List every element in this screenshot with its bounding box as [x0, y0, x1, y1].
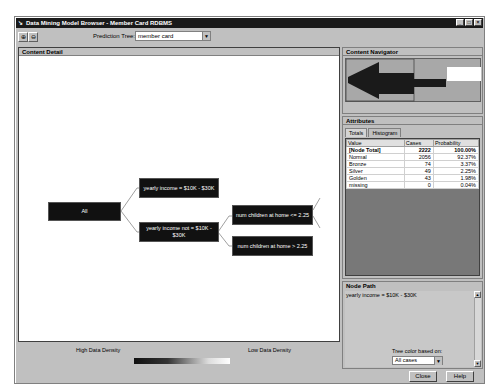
help-button[interactable]: Help — [446, 371, 474, 382]
node-label: num children at home <= 2.25 — [236, 212, 309, 219]
cell-probability: 2.25% — [433, 168, 478, 175]
cell-value: missing — [347, 182, 405, 189]
title-bar[interactable]: ➘ Data Mining Model Browser - Member Car… — [16, 18, 483, 28]
column-header-value[interactable]: Value — [347, 140, 405, 147]
table-row[interactable]: [Node Total] 2222 100.00% — [347, 147, 479, 154]
chevron-down-icon[interactable]: ▼ — [202, 32, 210, 40]
cell-probability: 3.37% — [433, 161, 478, 168]
close-button[interactable]: Close — [409, 371, 437, 382]
node-label: num children at home > 2.25 — [238, 243, 308, 250]
tree-node-children-le[interactable]: num children at home <= 2.25 — [232, 205, 313, 225]
cell-probability: 0.04% — [433, 182, 478, 189]
tree-color-label: Tree color based on: — [392, 348, 442, 354]
scroll-up-icon[interactable]: ▲ — [474, 291, 481, 298]
table-row[interactable]: Silver 49 2.25% — [347, 168, 479, 175]
cell-value: Normal — [347, 154, 405, 161]
model-browser-window: ➘ Data Mining Model Browser - Member Car… — [14, 16, 485, 384]
cell-value: Silver — [347, 168, 405, 175]
zoom-in-icon: ⊕ — [21, 34, 26, 40]
attributes-panel: Attributes Totals Histogram Value Cases … — [342, 116, 483, 279]
navigator-preview — [346, 59, 482, 103]
zoom-in-button[interactable]: ⊕ — [18, 32, 28, 42]
table-row[interactable]: Golden 43 1.98% — [347, 175, 479, 182]
table-row[interactable]: Normal 2056 92.37% — [347, 154, 479, 161]
close-window-button[interactable]: × — [474, 19, 482, 26]
node-label: All — [81, 208, 87, 215]
content-navigator-panel: Content Navigator — [342, 47, 483, 114]
maximize-button[interactable]: □ — [465, 19, 473, 26]
tree-node-all[interactable]: All — [48, 202, 121, 221]
table-row[interactable]: missing 0 0.04% — [347, 182, 479, 189]
cell-cases: 2056 — [404, 154, 433, 161]
column-header-probability[interactable]: Probability — [433, 140, 478, 147]
tree-node-income-no[interactable]: yearly income not = $10K - $30K — [139, 222, 219, 242]
tree-color-select[interactable]: All cases ▼ — [392, 356, 443, 365]
bottom-bar: High Data Density Low Data Density Tree … — [16, 344, 484, 383]
high-density-label: High Data Density — [76, 347, 120, 353]
density-gradient-bar — [134, 358, 230, 364]
node-label: yearly income = $10K - $30K — [144, 185, 215, 192]
cell-cases: 74 — [404, 161, 433, 168]
zoom-out-icon: ⊖ — [31, 34, 36, 40]
cell-cases: 43 — [404, 175, 433, 182]
prediction-tree-value: member card — [138, 33, 173, 39]
prediction-tree-select[interactable]: member card ▼ — [135, 31, 211, 41]
toolbar: ⊕ ⊖ Prediction Tree: member card ▼ — [16, 29, 483, 45]
window-title: Data Mining Model Browser - Member Card … — [26, 18, 172, 28]
cell-value: [Node Total] — [347, 147, 405, 154]
tab-histogram[interactable]: Histogram — [368, 128, 401, 137]
attributes-title: Attributes — [343, 117, 482, 125]
table-row[interactable]: Bronze 74 3.37% — [347, 161, 479, 168]
cell-value: Golden — [347, 175, 405, 182]
minimize-button[interactable]: _ — [456, 19, 464, 26]
cell-cases: 49 — [404, 168, 433, 175]
attributes-grid: Value Cases Probability [Node Total] 222… — [345, 138, 480, 276]
column-header-cases[interactable]: Cases — [404, 140, 433, 147]
content-navigator-title: Content Navigator — [343, 48, 482, 56]
cell-cases: 0 — [404, 182, 433, 189]
tree-color-value: All cases — [395, 357, 417, 363]
content-detail-panel: Content Detail All yearly income = $10K … — [18, 47, 340, 342]
cell-probability: 92.37% — [433, 154, 478, 161]
node-path-text: yearly income = $10K - $30K — [346, 292, 417, 298]
zoom-out-button[interactable]: ⊖ — [28, 32, 38, 42]
tree-node-children-gt[interactable]: num children at home > 2.25 — [232, 236, 313, 256]
chevron-down-icon[interactable]: ▼ — [434, 357, 442, 365]
cell-cases: 2222 — [404, 147, 433, 154]
cell-value: Bronze — [347, 161, 405, 168]
navigator-viewport[interactable] — [345, 58, 481, 102]
cell-probability: 1.98% — [433, 175, 478, 182]
tree-node-income-yes[interactable]: yearly income = $10K - $30K — [139, 178, 219, 198]
tab-totals[interactable]: Totals — [345, 128, 367, 137]
low-density-label: Low Data Density — [248, 347, 291, 353]
node-path-title: Node Path — [343, 282, 482, 290]
node-label: yearly income not = $10K - $30K — [142, 225, 216, 239]
cell-probability: 100.00% — [433, 147, 478, 154]
app-icon: ➘ — [18, 20, 24, 26]
prediction-tree-label: Prediction Tree: — [93, 33, 135, 39]
